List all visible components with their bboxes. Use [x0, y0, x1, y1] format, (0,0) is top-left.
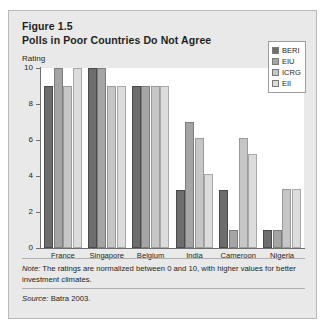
bar-group — [88, 68, 126, 248]
bar — [273, 230, 282, 248]
y-tick-mark — [36, 104, 40, 105]
plot-area — [41, 68, 304, 248]
chart-legend: BERIEIUICRGEII — [268, 41, 306, 93]
legend-label: ICRG — [282, 68, 301, 77]
legend-swatch-icon — [272, 80, 279, 87]
y-tick-label: 6 — [11, 136, 33, 144]
bar — [248, 154, 257, 248]
y-axis-line — [40, 67, 41, 249]
legend-label: EIU — [282, 57, 295, 66]
bar — [151, 86, 160, 248]
bar-group — [176, 68, 214, 248]
figure-number: Figure 1.5 — [22, 20, 302, 34]
bar-group — [263, 68, 301, 248]
bar — [44, 86, 53, 248]
bar — [195, 138, 204, 248]
bar — [239, 138, 248, 248]
bar — [88, 68, 97, 248]
bar — [219, 190, 228, 248]
figure-panel: Figure 1.5 Polls in Poor Countries Do No… — [8, 10, 317, 319]
legend-swatch-icon — [272, 58, 279, 65]
y-tick-mark — [36, 176, 40, 177]
figure-source: Source: Batra 2003. — [22, 293, 306, 304]
bar-group — [44, 68, 82, 248]
source-text: Batra 2003. — [49, 294, 91, 303]
divider — [22, 258, 305, 259]
bar — [117, 86, 126, 248]
bar — [176, 190, 185, 248]
bar — [292, 189, 301, 248]
bar — [141, 86, 150, 248]
source-label: Source: — [22, 294, 49, 303]
note-text: The ratings are normalized between 0 and… — [22, 264, 296, 284]
bar — [54, 68, 63, 248]
legend-item: ICRG — [272, 67, 301, 78]
legend-item: EIU — [272, 56, 301, 67]
y-tick-label: 8 — [11, 100, 33, 108]
y-tick-label: 0 — [11, 244, 33, 252]
legend-swatch-icon — [272, 47, 279, 54]
legend-item: EII — [272, 78, 301, 89]
bar — [204, 174, 213, 248]
legend-label: BERI — [282, 46, 300, 55]
legend-item: BERI — [272, 45, 301, 56]
bar — [97, 68, 106, 248]
figure-title-block: Figure 1.5 Polls in Poor Countries Do No… — [22, 20, 302, 47]
bar — [63, 86, 72, 248]
y-tick-mark — [36, 212, 40, 213]
y-tick-mark — [36, 140, 40, 141]
figure-note: Note: The ratings are normalized between… — [22, 263, 306, 285]
bar — [185, 122, 194, 248]
bar — [263, 230, 272, 248]
x-axis-line — [40, 248, 305, 249]
y-tick-mark — [36, 248, 40, 249]
bar-group — [132, 68, 170, 248]
bar — [73, 68, 82, 248]
legend-label: EII — [282, 79, 291, 88]
note-label: Note: — [22, 264, 40, 273]
bar — [282, 189, 291, 248]
y-tick-label: 10 — [11, 64, 33, 72]
divider-secondary — [22, 288, 305, 289]
legend-swatch-icon — [272, 69, 279, 76]
y-tick-mark — [36, 68, 40, 69]
y-tick-label: 2 — [11, 208, 33, 216]
bars-layer — [41, 68, 304, 248]
page-title: Polls in Poor Countries Do Not Agree — [22, 34, 302, 48]
bar — [107, 86, 116, 248]
bar — [160, 86, 169, 248]
bar-group — [219, 68, 257, 248]
bar — [229, 230, 238, 248]
bar — [132, 86, 141, 248]
y-tick-label: 4 — [11, 172, 33, 180]
